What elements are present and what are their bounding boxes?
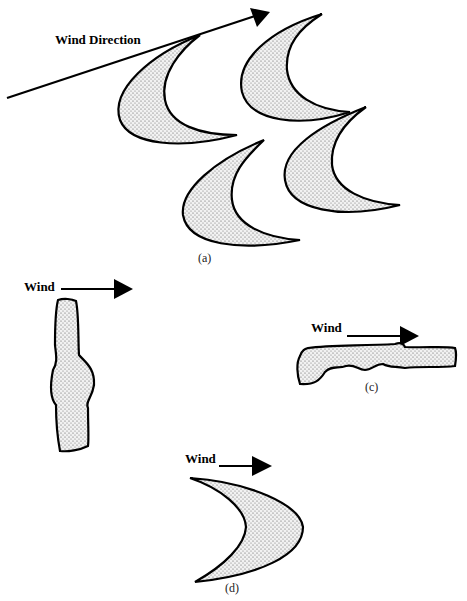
parabolic-dune [190,478,303,582]
barchan-dune [241,14,350,121]
wind-label-b: Wind [24,279,56,294]
wind-label-d: Wind [185,451,217,466]
panel-c: Wind (c) [297,320,456,394]
barchan-dune [183,140,300,246]
wind-label-c: Wind [311,320,343,335]
barchan-dune [118,35,237,143]
wind-direction-label: Wind Direction [55,32,142,47]
linear-dune-parallel [297,343,456,384]
dune-diagram: Wind Direction (a) Wind Wind (c) Wind (d… [0,0,467,601]
linear-dune-perpendicular [51,299,94,451]
caption-c: (c) [365,380,378,394]
caption-a: (a) [198,251,211,265]
arrowhead-icon [114,279,133,299]
barchan-dune [285,107,400,212]
panel-b: Wind [24,279,133,451]
panel-d: Wind (d) [185,451,303,595]
arrowhead-icon [252,456,272,476]
caption-d: (d) [225,581,239,595]
panel-a: Wind Direction (a) [7,8,400,265]
